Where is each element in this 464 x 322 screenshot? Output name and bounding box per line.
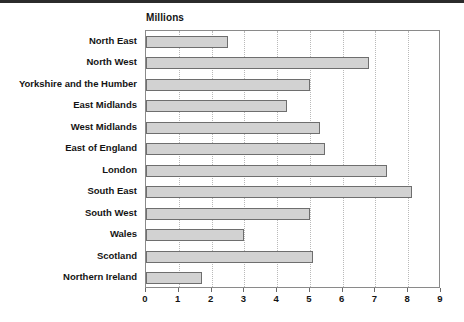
x-axis: 0123456789 — [145, 288, 440, 312]
bar-row — [146, 53, 439, 75]
bar — [146, 100, 287, 112]
bar — [146, 57, 369, 69]
x-axis-tick-label: 8 — [405, 293, 410, 304]
y-axis-label: South East — [0, 185, 141, 196]
x-axis-tick — [211, 288, 212, 292]
y-axis-label: North East — [0, 35, 141, 46]
x-axis-tick — [374, 288, 375, 292]
bar-row — [146, 139, 439, 161]
bar — [146, 186, 412, 198]
bar — [146, 36, 228, 48]
plot-area — [145, 30, 440, 288]
x-axis-tick-label: 9 — [437, 293, 442, 304]
x-axis-tick-label: 4 — [273, 293, 278, 304]
bar — [146, 122, 320, 134]
y-axis-label: South West — [0, 207, 141, 218]
x-axis-tick-label: 1 — [175, 293, 180, 304]
bar — [146, 143, 325, 155]
x-axis-tick — [145, 288, 146, 292]
x-axis-tick-label: 5 — [306, 293, 311, 304]
bar-series — [146, 31, 439, 287]
bar-row — [146, 160, 439, 182]
bar — [146, 251, 313, 263]
y-axis-label: London — [0, 164, 141, 175]
bar — [146, 229, 244, 241]
page-top-rule — [0, 0, 464, 3]
y-axis-label: East of England — [0, 142, 141, 153]
y-axis-label: Wales — [0, 228, 141, 239]
bar-row — [146, 74, 439, 96]
x-axis-tick-label: 3 — [241, 293, 246, 304]
y-axis-label: North West — [0, 56, 141, 67]
bar-row — [146, 268, 439, 289]
x-axis-tick — [309, 288, 310, 292]
bar-row — [146, 96, 439, 118]
y-axis-label: Scotland — [0, 250, 141, 261]
bar-row — [146, 246, 439, 268]
x-axis-tick — [407, 288, 408, 292]
bar-row — [146, 225, 439, 247]
y-axis-label: Northern Ireland — [0, 271, 141, 282]
x-axis-tick — [342, 288, 343, 292]
bar-row — [146, 31, 439, 53]
y-axis-label: East Midlands — [0, 99, 141, 110]
bar-row — [146, 117, 439, 139]
y-axis-category-labels: North EastNorth WestYorkshire and the Hu… — [0, 30, 141, 288]
x-axis-tick — [440, 288, 441, 292]
x-axis-tick — [243, 288, 244, 292]
bar-row — [146, 182, 439, 204]
bar-row — [146, 203, 439, 225]
x-axis-tick-label: 0 — [142, 293, 147, 304]
x-axis-tick-label: 6 — [339, 293, 344, 304]
chart-axis-title: Millions — [146, 12, 184, 23]
x-axis-tick-label: 7 — [372, 293, 377, 304]
y-axis-label: West Midlands — [0, 121, 141, 132]
bar — [146, 165, 387, 177]
x-axis-tick — [276, 288, 277, 292]
x-axis-tick-label: 2 — [208, 293, 213, 304]
x-axis-tick — [178, 288, 179, 292]
bar — [146, 79, 310, 91]
bar-chart-figure: Millions North EastNorth WestYorkshire a… — [0, 0, 464, 322]
y-axis-label: Yorkshire and the Humber — [0, 78, 141, 89]
bar — [146, 208, 310, 220]
bar — [146, 272, 202, 284]
